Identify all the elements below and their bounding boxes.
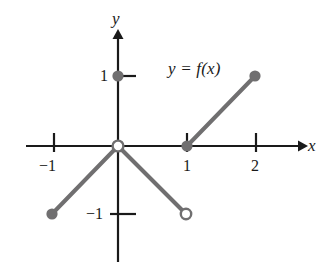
point-upper-right-closed (249, 70, 260, 81)
point-lower-right-open (181, 209, 191, 219)
tick-label-x-two: 2 (251, 158, 259, 174)
x-axis (26, 141, 308, 152)
y-axis-arrowhead (113, 29, 124, 39)
segment-right (187, 76, 255, 146)
segment-middle (118, 146, 186, 214)
graph-canvas (0, 0, 329, 269)
function-graph-figure: y x 1 −1 −1 1 2 y = f(x) (0, 0, 329, 269)
y-axis-label: y (112, 10, 120, 27)
point-origin-open (113, 141, 124, 152)
point-x-one-closed (181, 140, 192, 151)
point-lower-left-closed (46, 208, 57, 219)
x-axis-label: x (308, 137, 316, 154)
tick-label-x-one: 1 (183, 158, 191, 174)
point-y-one-closed (112, 70, 123, 81)
curve-annotation-label: y = f(x) (168, 60, 221, 77)
x-axis-arrowhead (298, 141, 308, 152)
segment-left (52, 146, 118, 214)
tick-label-x-negative-one: −1 (39, 158, 56, 174)
tick-label-y-negative-one: −1 (86, 206, 103, 222)
tick-label-y-one: 1 (100, 68, 108, 84)
